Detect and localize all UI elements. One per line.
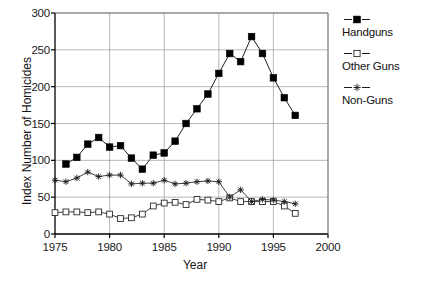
data-point-7-marker-filled-square <box>139 166 146 173</box>
data-point-4-marker-asterisk <box>95 173 101 179</box>
data-point-19-marker-asterisk <box>259 196 265 202</box>
legend-marker-open-square <box>342 46 418 59</box>
data-point-3-marker-open-square <box>85 210 91 216</box>
data-point-14-marker-asterisk <box>205 178 211 184</box>
data-point-18-marker-asterisk <box>248 198 254 204</box>
data-point-19-marker-filled-square <box>270 75 277 82</box>
data-point-16-marker-filled-square <box>237 58 244 65</box>
data-point-9-marker-filled-square <box>161 150 168 157</box>
data-point-2-marker-asterisk <box>74 175 80 181</box>
data-point-11-marker-asterisk <box>172 181 178 187</box>
data-point-2-marker-open-square <box>74 209 80 215</box>
data-point-21-marker-filled-square <box>292 112 299 119</box>
data-point-5-marker-asterisk <box>106 172 112 178</box>
data-point-21-marker-asterisk <box>281 198 287 204</box>
homicide-index-line-chart: 050100150200250300 197519801985199019952… <box>0 0 421 282</box>
data-point-18-marker-filled-square <box>259 50 266 57</box>
data-point-3-marker-asterisk <box>85 169 91 175</box>
legend-sample-glyph <box>342 81 376 94</box>
data-point-14-marker-open-square <box>205 197 211 203</box>
legend-label: Other Guns <box>342 59 418 74</box>
data-point-1-marker-open-square <box>63 209 69 215</box>
legend-sample-glyph <box>342 13 376 26</box>
x-tick-label: 2000 <box>316 241 341 253</box>
x-tick-label: 1985 <box>152 241 177 253</box>
data-point-7-marker-asterisk <box>128 181 134 187</box>
data-point-11-marker-open-square <box>172 199 178 205</box>
data-point-5-marker-filled-square <box>117 142 124 149</box>
data-point-0-marker-filled-square <box>63 161 70 168</box>
y-tick-label: 300 <box>8 7 50 19</box>
data-point-8-marker-asterisk <box>139 180 145 186</box>
data-point-1-marker-filled-square <box>74 154 81 161</box>
data-point-8-marker-open-square <box>139 211 145 217</box>
legend-label: Handguns <box>342 25 418 40</box>
x-tick-label: 1990 <box>206 241 231 253</box>
data-point-15-marker-filled-square <box>226 50 233 57</box>
data-point-12-marker-asterisk <box>183 180 189 186</box>
data-point-22-marker-asterisk <box>292 201 298 207</box>
legend-marker-filled-square <box>354 16 361 23</box>
legend-entry-handguns[interactable]: Handguns <box>342 12 418 40</box>
data-point-6-marker-asterisk <box>117 172 123 178</box>
data-point-20-marker-asterisk <box>270 197 276 203</box>
data-point-10-marker-open-square <box>161 200 167 206</box>
data-point-15-marker-asterisk <box>216 178 222 184</box>
data-point-9-marker-open-square <box>150 203 156 209</box>
data-point-8-marker-filled-square <box>150 152 157 159</box>
data-point-13-marker-asterisk <box>194 178 200 184</box>
data-point-12-marker-open-square <box>183 202 189 208</box>
legend-label: Non-Guns <box>342 93 418 108</box>
data-point-17-marker-asterisk <box>237 187 243 193</box>
x-axis-title: Year <box>150 258 240 272</box>
y-tick-label: 0 <box>8 228 50 240</box>
legend-marker-asterisk <box>342 80 418 93</box>
data-point-0-marker-open-square <box>52 210 58 216</box>
legend-sample-glyph <box>342 47 376 60</box>
data-point-9-marker-asterisk <box>150 180 156 186</box>
data-point-3-marker-filled-square <box>95 134 102 141</box>
data-point-10-marker-filled-square <box>172 138 179 145</box>
legend-entry-non-guns[interactable]: Non-Guns <box>342 80 418 108</box>
data-point-2-marker-filled-square <box>84 141 91 148</box>
data-point-14-marker-filled-square <box>216 70 223 77</box>
data-point-20-marker-filled-square <box>281 94 288 101</box>
data-point-7-marker-open-square <box>129 215 135 221</box>
data-point-6-marker-filled-square <box>128 155 135 162</box>
x-tick-label: 1975 <box>43 241 68 253</box>
data-point-6-marker-open-square <box>118 216 124 222</box>
data-point-5-marker-open-square <box>107 211 113 217</box>
data-point-1-marker-asterisk <box>63 178 69 184</box>
legend-marker-open-square <box>354 50 360 56</box>
data-point-13-marker-open-square <box>194 196 200 202</box>
data-point-16-marker-asterisk <box>227 194 233 200</box>
data-point-22-marker-open-square <box>292 210 298 216</box>
data-point-4-marker-open-square <box>96 209 102 215</box>
legend-entry-other-guns[interactable]: Other Guns <box>342 46 418 74</box>
legend-marker-asterisk <box>353 84 360 91</box>
data-point-10-marker-asterisk <box>161 177 167 183</box>
data-point-11-marker-filled-square <box>183 120 190 127</box>
legend-marker-filled-square <box>342 12 418 25</box>
data-point-17-marker-open-square <box>238 199 244 205</box>
data-point-13-marker-filled-square <box>205 91 212 98</box>
y-axis-title: Index Number of Homicides <box>20 41 34 221</box>
data-point-15-marker-open-square <box>216 199 222 205</box>
grid-lines <box>55 13 328 234</box>
series-handguns <box>63 33 299 172</box>
data-point-0-marker-asterisk <box>52 177 58 183</box>
data-point-12-marker-filled-square <box>194 105 201 112</box>
x-tick-label: 1980 <box>97 241 122 253</box>
chart-legend: HandgunsOther GunsNon-Guns <box>342 12 418 114</box>
x-tick-label: 1995 <box>261 241 286 253</box>
data-point-17-marker-filled-square <box>248 33 255 40</box>
data-point-4-marker-filled-square <box>106 144 113 151</box>
